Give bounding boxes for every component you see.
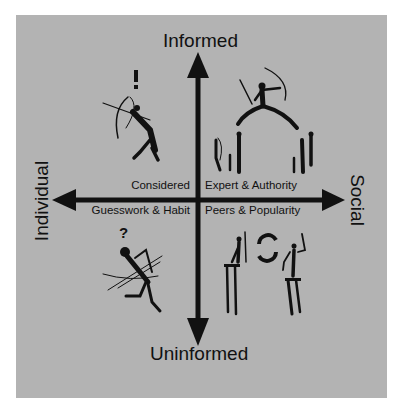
circular-arrows-icon <box>259 235 276 261</box>
axis-label-uninformed: Uninformed <box>150 343 248 365</box>
axis-label-informed: Informed <box>163 30 238 52</box>
lone-archer-figure <box>103 97 158 160</box>
tangled-archer-figure <box>103 247 162 311</box>
axis-label-social: Social <box>346 160 368 240</box>
quadrant-label-peers-popularity: Peers & Popularity <box>205 204 300 216</box>
quadrant-label-considered: Considered <box>131 179 190 191</box>
svg-text:?: ? <box>119 224 128 241</box>
onlookers-group-right <box>294 132 314 173</box>
axis-label-individual: Individual <box>31 151 53 251</box>
onlookers-group-left <box>216 132 242 173</box>
leaping-leader-figure <box>238 68 297 128</box>
exclamation-icon <box>134 70 138 89</box>
peer-figure-left <box>224 232 246 314</box>
peer-figure-right <box>283 234 305 314</box>
question-mark-icon: ? <box>119 224 128 241</box>
quadrant-label-guesswork-habit: Guesswork & Habit <box>92 204 190 216</box>
quadrant-label-expert-authority: Expert & Authority <box>205 179 297 191</box>
